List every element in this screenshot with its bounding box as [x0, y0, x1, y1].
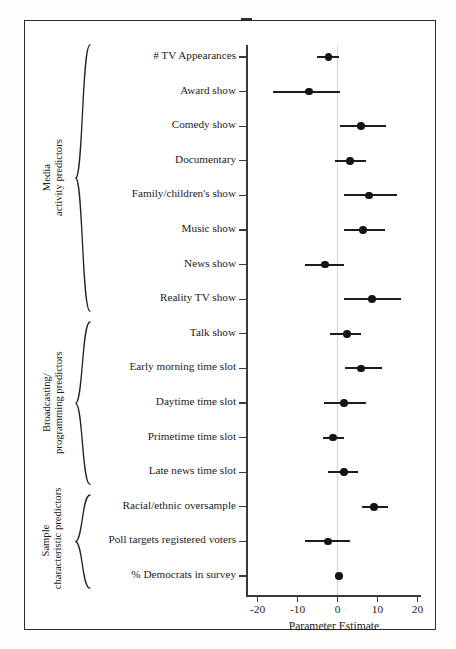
- group-label-line1: Broadcasting/: [40, 319, 52, 485]
- y-axis-label: # TV Appearances: [153, 50, 236, 61]
- group-label-line2: characteristic predictors: [52, 492, 64, 589]
- y-axis-label: Racial/ethnic oversample: [123, 500, 236, 511]
- estimate-marker: [343, 330, 351, 338]
- y-axis-label: Early morning time slot: [129, 361, 236, 372]
- x-axis-tick: [257, 595, 258, 602]
- y-axis-tick: [239, 195, 247, 196]
- estimate-marker: [365, 192, 373, 200]
- group-bracket: [74, 43, 92, 313]
- x-axis-tick-label: -20: [238, 603, 278, 615]
- y-axis-label: Primetime time slot: [148, 431, 236, 442]
- forest-plot: # TV AppearancesAward showComedy showDoc…: [0, 0, 456, 649]
- y-axis-tick: [239, 541, 247, 542]
- x-axis-tick-label: 0: [318, 603, 358, 615]
- estimate-marker: [357, 122, 365, 130]
- estimate-marker: [321, 261, 329, 269]
- y-axis-tick: [239, 229, 247, 230]
- y-axis-tick: [239, 437, 247, 438]
- estimate-marker: [305, 88, 313, 96]
- y-axis-label: Comedy show: [172, 119, 236, 130]
- group-label: Samplecharacteristic predictors: [40, 492, 63, 589]
- estimate-marker: [370, 503, 378, 511]
- y-axis-label: Daytime time slot: [156, 396, 236, 407]
- estimate-marker: [346, 157, 354, 165]
- estimate-marker: [329, 434, 337, 442]
- estimate-marker: [368, 295, 376, 303]
- y-axis-label: Late news time slot: [149, 465, 236, 476]
- y-axis-label: Poll targets registered voters: [109, 534, 237, 545]
- y-axis-tick: [239, 472, 247, 473]
- group-label-line2: activity predictors: [52, 43, 64, 313]
- y-axis-tick: [239, 299, 247, 300]
- y-axis-label: % Democrats in survey: [131, 569, 236, 580]
- estimate-marker: [359, 226, 367, 234]
- x-axis-line: [246, 595, 421, 597]
- y-axis-tick: [239, 402, 247, 403]
- group-label: Broadcasting/programming predictors: [40, 319, 63, 485]
- x-axis-tick: [297, 595, 298, 602]
- group-label: Mediaactivity predictors: [40, 43, 63, 313]
- estimate-marker: [335, 572, 343, 580]
- y-axis-label: Reality TV show: [160, 292, 236, 303]
- y-axis-label: News show: [184, 258, 236, 269]
- y-axis-label: Award show: [180, 85, 236, 96]
- x-axis-tick-label: 20: [398, 603, 438, 615]
- estimate-marker: [357, 365, 365, 373]
- x-axis-title: Parameter Estimate: [246, 620, 422, 633]
- group-bracket: [74, 493, 92, 590]
- estimate-marker: [340, 399, 348, 407]
- group-bracket: [74, 320, 92, 486]
- x-axis-tick-label: 10: [358, 603, 398, 615]
- group-label-line2: programming predictors: [52, 319, 64, 485]
- x-axis-tick: [377, 595, 378, 602]
- estimate-marker: [340, 468, 348, 476]
- y-axis-tick: [239, 368, 247, 369]
- y-axis-tick: [239, 56, 247, 57]
- estimate-marker: [324, 538, 332, 546]
- estimate-marker: [325, 53, 333, 61]
- zero-reference-line: [337, 45, 338, 595]
- y-axis-label: Family/children's show: [132, 188, 236, 199]
- y-axis-tick: [239, 575, 247, 576]
- x-axis-tick: [417, 595, 418, 602]
- y-axis-label: Music show: [182, 223, 236, 234]
- x-axis-tick: [337, 595, 338, 602]
- x-axis-tick-label: -10: [278, 603, 318, 615]
- y-axis-label: Talk show: [190, 327, 236, 338]
- y-axis-tick: [239, 126, 247, 127]
- figure-root: # TV AppearancesAward showComedy showDoc…: [0, 0, 456, 649]
- y-axis-tick: [239, 160, 247, 161]
- y-axis-tick: [239, 333, 247, 334]
- y-axis-tick: [239, 264, 247, 265]
- group-label-line1: Sample: [40, 492, 52, 589]
- y-axis-tick: [239, 91, 247, 92]
- y-axis-tick: [239, 506, 247, 507]
- y-axis-label: Documentary: [175, 154, 236, 165]
- y-axis-line: [246, 45, 248, 596]
- group-label-line1: Media: [40, 43, 52, 313]
